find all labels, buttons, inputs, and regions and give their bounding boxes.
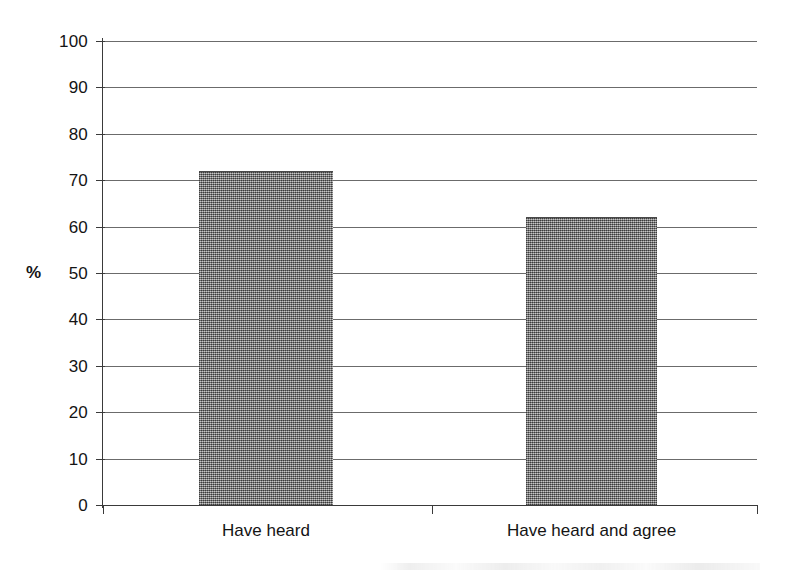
plot-area xyxy=(103,41,757,505)
y-axis-tick-label-20: 20 xyxy=(44,404,88,421)
x-axis-label-1: Have heard xyxy=(116,521,416,540)
x-axis-tick-left xyxy=(103,505,104,514)
y-axis-tick-label-90: 90 xyxy=(44,79,88,96)
y-axis-tick-label-70: 70 xyxy=(44,172,88,189)
bar-1 xyxy=(199,171,333,505)
y-axis-tick-label-80: 80 xyxy=(44,126,88,143)
y-axis-tick-label-0: 0 xyxy=(44,497,88,514)
bar-2 xyxy=(526,217,657,505)
y-axis-title: % xyxy=(26,264,50,281)
x-axis-tick-right xyxy=(757,505,758,514)
x-axis-tick-middle xyxy=(432,505,433,514)
y-axis-tick-label-10: 10 xyxy=(44,451,88,468)
y-axis-tick-label-50: 50 xyxy=(44,265,88,282)
scan-edge-artifact xyxy=(380,563,760,570)
y-axis-tick-label-40: 40 xyxy=(44,311,88,328)
gridline-0 xyxy=(103,505,757,506)
y-axis-tick-label-100: 100 xyxy=(44,33,88,50)
y-axis-tick-label-30: 30 xyxy=(44,358,88,375)
y-axis-tick-label-60: 60 xyxy=(44,219,88,236)
bar-chart-figure: 0102030405060708090100 % Have heardHave … xyxy=(0,0,786,570)
x-axis-label-2: Have heard and agree xyxy=(442,521,742,540)
